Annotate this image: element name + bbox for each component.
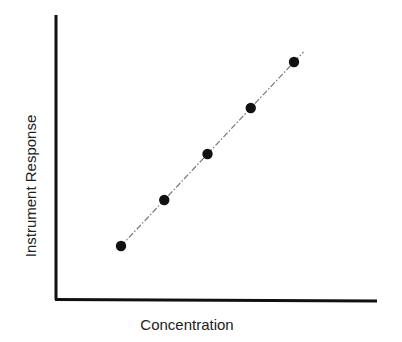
data-point bbox=[159, 195, 169, 205]
data-point bbox=[202, 149, 212, 159]
fit-line bbox=[121, 52, 304, 246]
x-axis bbox=[55, 300, 377, 302]
fit-line-segment bbox=[121, 52, 304, 246]
data-point bbox=[116, 241, 126, 251]
x-axis-label: Concentration bbox=[140, 316, 233, 333]
y-axis-label: Instrument Response bbox=[22, 115, 39, 258]
data-point bbox=[246, 103, 256, 113]
calibration-chart: Concentration Instrument Response bbox=[0, 0, 402, 342]
data-point bbox=[289, 57, 299, 67]
